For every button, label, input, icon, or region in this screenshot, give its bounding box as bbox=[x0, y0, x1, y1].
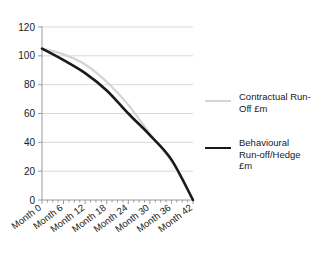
y-tick-labels-group: 020406080100120 bbox=[18, 22, 35, 206]
gridlines-group bbox=[42, 27, 193, 171]
line-chart-plot: 020406080100120 Month 0Month 6Month 12Mo… bbox=[0, 0, 321, 261]
legend-label-behavioural: Behavioural Run-off/Hedge £m bbox=[239, 137, 321, 172]
y-tick-label: 120 bbox=[18, 22, 35, 33]
x-tick-marks-group bbox=[42, 200, 193, 204]
y-tick-label: 100 bbox=[18, 50, 35, 61]
legend-label-behavioural-line1: Behavioural bbox=[239, 137, 289, 148]
legend-label-contractual-line1: Contractual Run- bbox=[239, 91, 311, 102]
y-tick-label: 40 bbox=[24, 137, 36, 148]
y-tick-label: 20 bbox=[24, 166, 36, 177]
y-tick-label: 60 bbox=[24, 108, 36, 119]
x-tick-labels-group: Month 0Month 6Month 12Month 18Month 24Mo… bbox=[9, 202, 194, 235]
series-line-contractual bbox=[42, 49, 193, 200]
data-series-group bbox=[42, 49, 193, 200]
series-line-behavioural bbox=[42, 49, 193, 200]
legend-label-contractual-line2: Off £m bbox=[239, 103, 267, 114]
legend-swatch-contractual bbox=[205, 100, 231, 102]
y-tick-marks-group bbox=[38, 27, 42, 200]
legend-label-behavioural-line2: Run-off/Hedge bbox=[239, 149, 301, 160]
legend-label-behavioural-line3: £m bbox=[239, 160, 252, 171]
legend-label-contractual: Contractual Run- Off £m bbox=[239, 91, 321, 114]
legend-swatch-behavioural bbox=[205, 147, 231, 149]
y-tick-label: 80 bbox=[24, 79, 36, 90]
chart-container: 020406080100120 Month 0Month 6Month 12Mo… bbox=[0, 0, 321, 261]
